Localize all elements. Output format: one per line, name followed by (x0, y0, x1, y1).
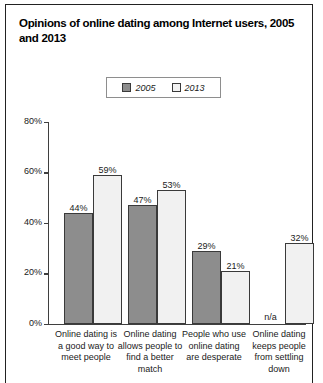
bar-2013-cat1[interactable]: 59% (93, 175, 122, 324)
bar-label-2005-cat2: 47% (133, 195, 151, 205)
bar-2013-cat2[interactable]: 53% (157, 190, 186, 324)
bar-2005-cat3[interactable]: 29% (192, 251, 221, 324)
y-tick-label-20: 20% (24, 267, 42, 277)
chart-legend: 2005 2013 (106, 77, 221, 98)
x-category-label-4: Online dating keeps people from settling… (244, 329, 314, 375)
x-category-label-2: Online dating allows people to find a be… (117, 329, 183, 375)
x-category-label-1: Online dating is a good way to meet peop… (53, 329, 119, 364)
y-tick-label-80: 80% (24, 116, 42, 126)
legend-entry-2013: 2013 (172, 83, 205, 93)
bar-label-2005-cat1: 44% (69, 203, 87, 213)
bar-group-2: 47% 53% (128, 122, 186, 324)
bar-label-2013-cat2: 53% (162, 180, 180, 190)
bar-2005-cat1[interactable]: 44% (64, 213, 93, 324)
bar-label-2013-cat4: 32% (290, 233, 308, 243)
bar-label-2013-cat1: 59% (98, 165, 116, 175)
bar-label-2013-cat3: 21% (226, 261, 244, 271)
y-axis-line (48, 122, 49, 325)
legend-label-2005: 2005 (135, 83, 155, 93)
plot-area: 0% 20% 40% 60% 80% 44% 59% (48, 122, 306, 325)
chart-figure: Opinions of online dating among Internet… (5, 4, 313, 383)
bar-2005-cat2[interactable]: 47% (128, 205, 157, 324)
bar-group-1: 44% 59% (64, 122, 122, 324)
bar-group-3: 29% 21% (192, 122, 250, 324)
legend-swatch-2005 (122, 83, 131, 92)
bar-label-2005-cat4: n/a (264, 312, 277, 322)
bar-2013-cat3[interactable]: 21% (221, 271, 250, 324)
bar-label-2005-cat3: 29% (197, 241, 215, 251)
y-tick-label-40: 40% (24, 217, 42, 227)
legend-label-2013: 2013 (185, 83, 205, 93)
x-category-label-3: People who use online dating are despera… (181, 329, 247, 364)
bar-2005-cat4-missing: n/a (256, 312, 285, 324)
legend-entry-2005: 2005 (122, 83, 155, 93)
legend-swatch-2013 (172, 83, 181, 92)
bar-2013-cat4[interactable]: 32% (285, 243, 314, 324)
y-tick-label-60: 60% (24, 166, 42, 176)
x-axis-line (48, 324, 306, 325)
bar-group-4: n/a 32% (256, 122, 314, 324)
chart-title: Opinions of online dating among Internet… (19, 16, 297, 45)
y-tick-label-0: 0% (29, 318, 42, 328)
